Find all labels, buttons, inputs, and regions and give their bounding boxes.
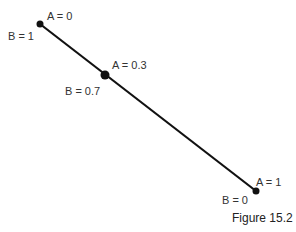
label-b-start: B = 1 <box>8 31 34 42</box>
label-a-end: A = 1 <box>256 177 281 188</box>
point-start <box>37 21 44 28</box>
label-a-start: A = 0 <box>47 11 72 22</box>
segment-line <box>40 24 256 191</box>
label-b-end: B = 0 <box>222 195 248 206</box>
label-b-mid: B = 0.7 <box>65 86 100 97</box>
diagram-canvas <box>0 0 296 232</box>
diagram: A = 0 B = 1 A = 0.3 B = 0.7 A = 1 B = 0 … <box>0 0 296 232</box>
point-end <box>253 188 260 195</box>
figure-caption: Figure 15.2 <box>232 212 293 224</box>
point-mid <box>101 71 110 80</box>
label-a-mid: A = 0.3 <box>112 60 147 71</box>
